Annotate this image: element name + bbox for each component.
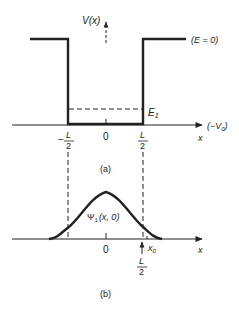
potential-well	[30, 39, 186, 124]
svg-text:2: 2	[140, 141, 145, 151]
tick-label-zero-a: 0	[103, 131, 109, 142]
v-axis-label: V(x)	[82, 15, 100, 26]
figure-a: V(x) (E = 0) E1 (−V0) x − L 2 0 L 2 (a)	[12, 15, 228, 174]
energy-level-label: E1	[148, 107, 159, 119]
svg-text:2: 2	[66, 141, 71, 151]
tick-label-zero-b: 0	[103, 244, 109, 255]
svg-text:2: 2	[139, 267, 144, 277]
x0-label: x0	[147, 243, 157, 254]
wavefunction-label: Ψ1(x, 0)	[87, 212, 119, 223]
marker-label-l-half: L 2	[137, 256, 147, 277]
tick-label-l-half: L 2	[138, 130, 148, 151]
x-axis-label-a: x	[197, 133, 203, 143]
well-bottom-label: (−V0)	[207, 121, 228, 132]
x-axis-label-b: x	[197, 245, 203, 255]
caption-a: (a)	[100, 164, 111, 174]
svg-text:L: L	[140, 130, 145, 140]
caption-b: (b)	[100, 289, 111, 299]
energy-zero-label: (E = 0)	[191, 35, 218, 45]
tick-label-minus-l-half: − L 2	[58, 130, 74, 151]
svg-text:−: −	[58, 134, 64, 145]
svg-text:L: L	[66, 130, 71, 140]
svg-text:L: L	[139, 256, 144, 266]
figure-b: Ψ1(x, 0) 0 L 2 x0 x (b)	[12, 192, 203, 299]
square-well-diagram: V(x) (E = 0) E1 (−V0) x − L 2 0 L 2 (a) …	[0, 0, 239, 309]
